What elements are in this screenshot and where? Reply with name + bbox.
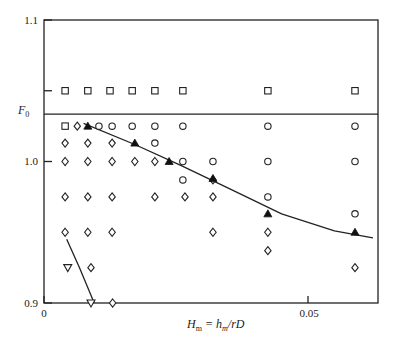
x-tick-label-0: 0	[41, 307, 47, 319]
diamond-marker	[109, 139, 115, 147]
circle-marker	[152, 140, 158, 146]
circle-marker	[180, 123, 186, 129]
square-marker	[129, 88, 135, 94]
diamond-marker	[182, 193, 188, 201]
filled-triangle-marker	[264, 210, 272, 217]
diamond-marker	[109, 193, 115, 201]
diamond-marker	[85, 158, 91, 166]
diamond-marker	[265, 228, 271, 236]
circle-marker	[180, 177, 186, 183]
filled-triangle-marker	[131, 139, 139, 146]
circle-marker	[152, 123, 158, 129]
square-marker	[62, 88, 68, 94]
filled-triangle-marker	[351, 228, 359, 235]
circle-marker	[210, 158, 216, 164]
diamond-marker	[62, 158, 68, 166]
circle-marker	[265, 158, 271, 164]
x-tick-label-0.05: 0.05	[299, 307, 319, 319]
y-tick-label-0.9: 0.9	[24, 297, 38, 309]
circle-marker	[180, 158, 186, 164]
circle-marker	[352, 211, 358, 217]
diamond-marker	[74, 122, 80, 130]
diamond-marker	[352, 264, 358, 272]
data-markers	[62, 88, 359, 307]
diamond-marker	[265, 247, 271, 255]
triangle-down-marker	[64, 265, 72, 272]
diamond-marker	[152, 158, 158, 166]
diamond-marker	[109, 158, 115, 166]
circle-marker	[129, 123, 135, 129]
y-axis-label: F0	[17, 103, 29, 119]
circle-marker	[352, 158, 358, 164]
diamond-marker	[210, 228, 216, 236]
square-marker	[85, 88, 91, 94]
circle-marker	[352, 123, 358, 129]
square-marker	[152, 88, 158, 94]
filled-triangle-marker	[209, 174, 217, 181]
diamond-marker	[88, 264, 94, 272]
diamond-marker	[85, 228, 91, 236]
square-marker	[62, 123, 68, 129]
diamond-marker	[109, 228, 115, 236]
square-marker	[265, 88, 271, 94]
upper-fit-curve	[84, 123, 373, 238]
diamond-marker	[62, 193, 68, 201]
square-marker	[352, 88, 358, 94]
y-tick-label-1.1: 1.1	[24, 14, 38, 26]
diamond-marker	[210, 193, 216, 201]
fit-curves	[67, 123, 373, 303]
circle-marker	[96, 123, 102, 129]
circle-marker	[265, 123, 271, 129]
diamond-marker	[152, 193, 158, 201]
diamond-marker	[132, 158, 138, 166]
y-tick-label-1.0: 1.0	[24, 155, 38, 167]
diamond-marker	[85, 193, 91, 201]
x-axis-label: Hm = hm/rD	[186, 317, 245, 333]
square-marker	[180, 88, 186, 94]
diamond-marker	[62, 228, 68, 236]
scatter-chart: 1.1 1.0 0.9 F0 0 0.05 Hm = hm/rD	[0, 0, 398, 345]
square-marker	[107, 88, 113, 94]
diamond-marker	[109, 299, 115, 307]
circle-marker	[109, 123, 115, 129]
diamond-marker	[62, 139, 68, 147]
circle-marker	[265, 194, 271, 200]
diamond-marker	[85, 139, 91, 147]
